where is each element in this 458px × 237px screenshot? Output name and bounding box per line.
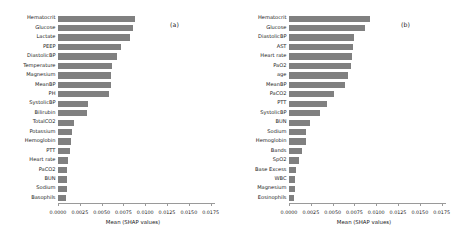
bar — [58, 138, 71, 144]
bar-row: MeanBP — [58, 80, 208, 89]
panel-b-plot-area: HematocritGlucoseDiastolicBPASTHeart rat… — [289, 14, 439, 203]
bar-label: BUN — [44, 175, 55, 182]
bar-label: Glucose — [266, 24, 286, 31]
bar-label: WBC — [275, 175, 287, 182]
x-axis-tick-label: 0.0075 — [115, 210, 132, 215]
bar-row: Glucose — [289, 23, 439, 32]
bar-row: WBC — [289, 175, 439, 184]
bar-label: PaO2 — [273, 62, 286, 69]
bar — [289, 110, 320, 116]
bar-label: PaCO2 — [39, 166, 56, 173]
bar — [289, 167, 296, 173]
bar — [289, 157, 299, 163]
bar-label: Basophils — [31, 194, 55, 201]
bar — [289, 176, 295, 182]
bar-label: SpO2 — [273, 156, 287, 163]
bar-row: Glucose — [58, 23, 208, 32]
bar-row: PaO2 — [289, 61, 439, 70]
bar-label: Potassium — [29, 128, 55, 135]
bar-row: TotalCO2 — [58, 118, 208, 127]
bar-label: PH — [49, 90, 56, 97]
bar-label: Eosinophils — [258, 194, 287, 201]
bar-label: DiastolicBP — [27, 52, 55, 59]
bar — [289, 129, 306, 135]
bar-row: age — [289, 71, 439, 80]
bar — [58, 176, 67, 182]
bar-label: Bands — [271, 147, 287, 154]
bar-label: PEEP — [43, 43, 56, 50]
bar — [58, 25, 133, 31]
bar-label: Temperature — [23, 62, 55, 69]
bar-row: Magnesium — [58, 71, 208, 80]
bar — [289, 25, 365, 31]
panel-a: (a) HematocritGlucoseLactatePEEPDiastoli… — [0, 0, 229, 237]
bar-row: PaCO2 — [289, 90, 439, 99]
bar-label: Hemoglobin — [25, 137, 56, 144]
bar-row: Sodium — [58, 184, 208, 193]
x-axis-tick — [167, 203, 168, 205]
bar — [58, 157, 68, 163]
x-axis-tick-label: 0.0150 — [411, 210, 428, 215]
bar-label: Heart rate — [29, 156, 55, 163]
bar — [58, 101, 88, 107]
bar-label: age — [277, 71, 287, 78]
bar-label: Magnesium — [26, 71, 55, 78]
x-axis-tick — [420, 203, 421, 205]
bar — [58, 16, 135, 22]
bar-row: Eosinophils — [289, 194, 439, 203]
x-axis-tick-label: 0.0100 — [137, 210, 154, 215]
bar — [58, 34, 130, 40]
bar-row: Lactate — [58, 33, 208, 42]
x-axis-tick-label: 0.0000 — [281, 210, 298, 215]
bar-row: PaCO2 — [58, 165, 208, 174]
shap-feature-importance-figure: (a) HematocritGlucoseLactatePEEPDiastoli… — [0, 0, 458, 237]
bar-label: Hematocrit — [27, 14, 55, 21]
bar — [58, 63, 112, 69]
bar-label: MeanBP — [35, 81, 55, 88]
bar-label: Sodium — [267, 128, 286, 135]
bar — [289, 186, 295, 192]
x-axis-tick-label: 0.0125 — [390, 210, 407, 215]
x-axis-tick — [398, 203, 399, 205]
bar — [289, 82, 345, 88]
x-axis-line — [58, 203, 215, 204]
x-axis-tick-label: 0.0075 — [346, 210, 363, 215]
bar-row: Hemoglobin — [289, 137, 439, 146]
bar-label: Base Excess — [255, 166, 286, 173]
bar-label: AST — [277, 43, 287, 50]
x-axis-tick-label: 0.0025 — [71, 210, 88, 215]
bar — [58, 53, 117, 59]
x-axis-title: Mean (SHAP values) — [337, 219, 391, 225]
bar-row: PEEP — [58, 42, 208, 51]
x-axis-tick — [376, 203, 377, 205]
bar-row: PH — [58, 90, 208, 99]
bar-label: Bilirubin — [35, 109, 56, 116]
bar — [289, 148, 302, 154]
bar — [58, 120, 74, 126]
bar-row: PTT — [58, 146, 208, 155]
bar-row: Bilirubin — [58, 109, 208, 118]
x-axis-tick — [80, 203, 81, 205]
x-axis-tick-label: 0.0175 — [202, 210, 219, 215]
bar — [289, 63, 351, 69]
x-axis-tick — [311, 203, 312, 205]
bar-row: SystolicBP — [289, 109, 439, 118]
bar — [289, 91, 334, 97]
x-axis-tick — [333, 203, 334, 205]
x-axis-tick — [189, 203, 190, 205]
bar-row: Hematocrit — [289, 14, 439, 23]
bar-row: BUN — [58, 175, 208, 184]
x-axis-tick — [442, 203, 443, 205]
bar-label: DiastolicBP — [258, 33, 286, 40]
panel-b: (b) HematocritGlucoseDiastolicBPASTHeart… — [229, 0, 458, 237]
bar — [58, 91, 109, 97]
bar-row: MeanBP — [289, 80, 439, 89]
bar-row: SpO2 — [289, 156, 439, 165]
bar — [289, 138, 306, 144]
bar-label: PaCO2 — [270, 90, 287, 97]
bar-label: BUN — [275, 118, 286, 125]
bar — [58, 195, 66, 201]
bar-row: Magnesium — [289, 184, 439, 193]
bar-row: DiastolicBP — [58, 52, 208, 61]
bar-label: MeanBP — [266, 81, 286, 88]
